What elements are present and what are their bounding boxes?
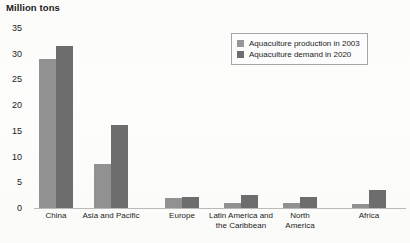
bar <box>94 164 111 208</box>
y-tick-label: 25 <box>12 75 22 84</box>
bar-group <box>283 0 317 208</box>
y-tick-label: 15 <box>12 126 22 135</box>
bar <box>39 59 56 208</box>
bar <box>369 190 386 208</box>
bar <box>352 204 369 208</box>
bar-chart: Million tons 05101520253035 Aquaculture … <box>0 0 410 243</box>
bar-group <box>94 0 128 208</box>
y-tick-label: 5 <box>17 178 22 187</box>
bar-group <box>352 0 386 208</box>
bar <box>165 198 182 208</box>
bar <box>283 203 300 208</box>
x-axis-baseline <box>34 208 406 209</box>
bar-group <box>224 0 258 208</box>
bar-group <box>165 0 199 208</box>
y-tick-label: 30 <box>12 49 22 58</box>
bar <box>241 195 258 208</box>
bar <box>224 203 241 208</box>
bar <box>300 197 317 208</box>
bar <box>111 125 128 208</box>
y-tick-label: 20 <box>12 101 22 110</box>
y-axis: 05101520253035 <box>0 0 34 243</box>
bar-group <box>39 0 73 208</box>
bar <box>56 46 73 208</box>
bar <box>182 197 199 208</box>
y-tick-label: 35 <box>12 24 22 33</box>
y-tick-label: 10 <box>12 152 22 161</box>
x-axis-category-label: Africa <box>324 211 410 221</box>
